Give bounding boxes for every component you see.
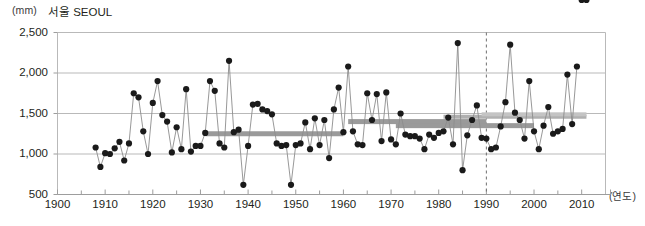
data-point [164,119,170,125]
data-point [536,146,542,152]
data-point [297,140,303,146]
data-point [107,151,113,157]
data-point [574,63,580,69]
x-tick-label: 1930 [178,199,222,211]
data-point [498,123,504,129]
data-point [226,58,232,64]
data-point [93,144,99,150]
data-point [302,119,308,125]
data-point [459,167,465,173]
data-point [174,124,180,130]
data-point [369,117,375,123]
data-point [140,128,146,134]
data-point [183,86,189,92]
data-point [431,135,437,141]
data-point [135,94,141,100]
data-point [116,139,122,145]
data-point [393,141,399,147]
data-point [240,182,246,188]
data-point [112,145,118,151]
data-point [316,142,322,148]
x-tick-label: 1970 [369,199,413,211]
data-point [569,121,575,127]
data-point [245,143,251,149]
data-point [540,123,546,129]
data-point [178,146,184,152]
data-point [336,84,342,90]
data-point [326,155,332,161]
data-point [345,63,351,69]
data-point [383,89,389,95]
data-point [531,128,537,134]
data-point [159,112,165,118]
data-point [364,90,370,96]
data-point [269,111,275,117]
y-tick-label: 1,000 [2,148,48,160]
data-point [397,110,403,116]
data-point [483,136,489,142]
data-point [464,132,470,138]
y-tick-label: 1,500 [2,108,48,120]
data-point [169,149,175,155]
plot-area [0,0,645,226]
data-point [216,140,222,146]
x-tick-label: 1960 [321,199,365,211]
data-point [421,146,427,152]
data-point [288,182,294,188]
x-tick-label: 1910 [83,199,127,211]
data-point [321,117,327,123]
data-point [307,146,313,152]
data-point [126,140,132,146]
x-tick-label: 2010 [560,199,604,211]
data-point [312,115,318,121]
rainfall-chart: (mm) 서울 SEOUL (연도) 5001,0001,5002,0002,5… [0,0,645,226]
data-point [145,151,151,157]
data-point [378,138,384,144]
data-point [121,157,127,163]
x-tick-label: 1900 [36,199,80,211]
data-point [493,144,499,150]
data-point [526,78,532,84]
data-point [474,102,480,108]
data-point [521,136,527,142]
data-point [221,144,227,150]
data-point [350,128,356,134]
data-point [331,106,337,112]
data-point [545,104,551,110]
data-point [131,90,137,96]
data-point [97,164,103,170]
data-point [374,91,380,97]
data-point [507,42,513,48]
x-tick-label: 1920 [131,199,175,211]
x-tick-label: 2000 [512,199,556,211]
data-point [445,114,451,120]
data-point [450,141,456,147]
data-point [212,88,218,94]
mean-bar [205,131,343,136]
data-point [235,127,241,133]
data-point [469,117,475,123]
data-point [440,128,446,134]
data-point [560,126,566,132]
data-point [502,99,508,105]
data-point [283,142,289,148]
data-point [197,143,203,149]
data-point [417,136,423,142]
y-tick-label: 2,000 [2,67,48,79]
x-tick-label: 1990 [464,199,508,211]
data-point [388,136,394,142]
data-point [455,40,461,46]
data-point [154,78,160,84]
x-tick-label: 1980 [417,199,461,211]
data-point [188,148,194,154]
x-tick-label: 1950 [274,199,318,211]
data-point [207,78,213,84]
data-point [202,130,208,136]
mean-bar [396,123,534,128]
data-point [564,72,570,78]
y-tick-label: 2,500 [2,27,48,39]
data-point [359,142,365,148]
data-point [340,129,346,135]
data-point [255,101,261,107]
data-point [150,100,156,106]
